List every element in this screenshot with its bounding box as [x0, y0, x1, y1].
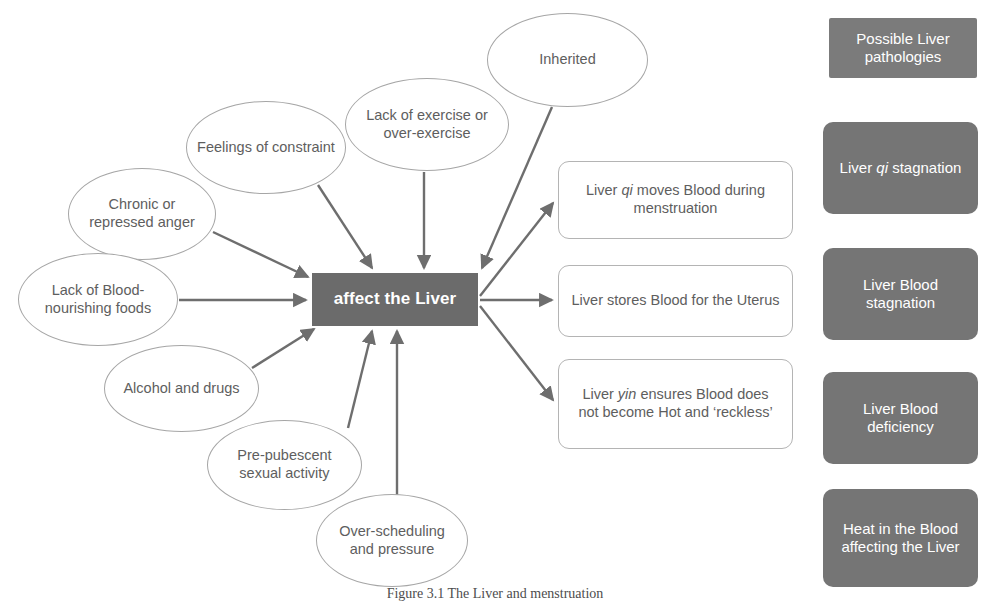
cause-node-lack-exercise[interactable]: Lack of exercise or over-exercise	[345, 78, 509, 171]
function-node-liver-stores-blood[interactable]: Liver stores Blood for the Uterus	[558, 265, 793, 337]
italic-term-yin: yin	[618, 386, 637, 402]
cause-node-over-scheduling-and-pressure[interactable]: Over-scheduling and pressure	[316, 494, 468, 587]
function-label: Liver stores Blood for the Uterus	[572, 292, 780, 310]
pathology-chip-heat-in-the-blood[interactable]: Heat in the Blood affecting the Liver	[823, 489, 978, 587]
pathologies-heading-label: Possible Liver pathologies	[837, 30, 969, 67]
pathology-label: Liver qi stagnation	[840, 159, 962, 177]
cause-label: Alcohol and drugs	[123, 380, 239, 398]
cause-label: Inherited	[539, 51, 595, 69]
arrow-chronic-anger-to-center	[213, 232, 308, 277]
pathology-label: Heat in the Blood affecting the Liver	[831, 520, 970, 557]
arrow-center-to-liver-qi-moves	[480, 203, 553, 296]
pathology-chip-liver-qi-stagnation[interactable]: Liver qi stagnation	[823, 122, 978, 214]
cause-label: Lack of exercise or over-exercise	[356, 107, 498, 142]
cause-node-inherited[interactable]: Inherited	[487, 13, 648, 107]
cause-label: Chronic or repressed anger	[79, 196, 205, 231]
arrow-pre-pubescent-to-center	[348, 331, 372, 428]
center-node-affect-the-liver: affect the Liver	[312, 273, 478, 326]
cause-node-alcohol-and-drugs[interactable]: Alcohol and drugs	[104, 345, 259, 432]
figure-caption: Figure 3.1 The Liver and menstruation	[0, 586, 990, 602]
cause-node-lack-blood-nourishing-foods[interactable]: Lack of Blood-nourishing foods	[18, 253, 178, 346]
cause-label: Pre-pubescent sexual activity	[218, 447, 351, 482]
function-node-liver-yin-ensures-blood[interactable]: Liver yin ensures Blood does not become …	[558, 359, 793, 449]
center-node-label: affect the Liver	[334, 289, 457, 310]
cause-label: Lack of Blood-nourishing foods	[29, 282, 167, 317]
cause-label: Over-scheduling and pressure	[327, 523, 457, 558]
arrow-center-to-liver-yin	[480, 306, 553, 400]
cause-node-pre-pubescent-sexual-activity[interactable]: Pre-pubescent sexual activity	[207, 420, 362, 510]
pathology-label: Liver Blood stagnation	[831, 276, 970, 313]
cause-label: Feelings of constraint	[197, 139, 335, 157]
italic-term-qi: qi	[621, 182, 632, 198]
pathology-label: Liver Blood deficiency	[831, 400, 970, 437]
function-label: Liver yin ensures Blood does not become …	[571, 386, 780, 421]
pathologies-heading: Possible Liver pathologies	[829, 18, 977, 78]
arrow-alcohol-drugs-to-center	[252, 329, 314, 368]
arrow-feelings-constraint-to-center	[318, 185, 372, 268]
cause-node-chronic-anger[interactable]: Chronic or repressed anger	[68, 168, 216, 260]
diagram-canvas: affect the Liver Chronic or repressed an…	[0, 0, 990, 606]
function-label: Liver qi moves Blood during menstruation	[571, 182, 780, 217]
cause-node-feelings-constraint[interactable]: Feelings of constraint	[186, 101, 346, 194]
pathology-chip-liver-blood-stagnation[interactable]: Liver Blood stagnation	[823, 248, 978, 340]
pathology-chip-liver-blood-deficiency[interactable]: Liver Blood deficiency	[823, 372, 978, 464]
italic-term-qi: qi	[876, 159, 888, 176]
function-node-liver-qi-moves-blood[interactable]: Liver qi moves Blood during menstruation	[558, 161, 793, 239]
